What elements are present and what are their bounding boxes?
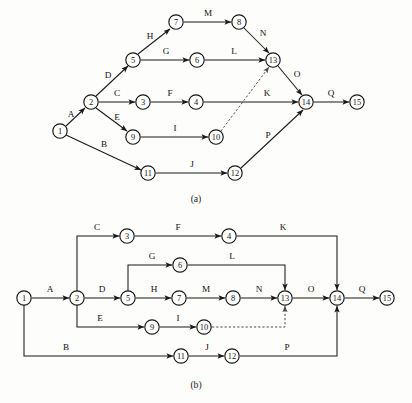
node-b-2[interactable]: 2 <box>70 291 84 305</box>
edge-label-b-A: A <box>47 284 54 294</box>
node-label-a-12: 12 <box>231 169 239 178</box>
node-a-12[interactable]: 12 <box>228 166 242 180</box>
node-label-b-14: 14 <box>333 294 342 303</box>
edge-label-b-L: L <box>229 251 235 261</box>
edge-label-b-O: O <box>308 284 315 294</box>
edge-label-a-A: A <box>68 109 75 119</box>
node-b-15[interactable]: 15 <box>380 291 394 305</box>
edge-label-b-I: I <box>176 313 179 323</box>
diagram-b-group: A B C D E F G H I J K L M N O P Q <box>17 222 394 391</box>
edge-label-a-N: N <box>260 28 267 38</box>
node-b-8[interactable]: 8 <box>226 291 240 305</box>
node-b-13[interactable]: 13 <box>278 291 292 305</box>
edge-label-a-I: I <box>173 123 176 133</box>
edge-label-a-Q: Q <box>328 88 335 98</box>
edge-label-b-E: E <box>97 313 103 323</box>
node-label-a-11: 11 <box>144 169 152 178</box>
node-label-a-5: 5 <box>131 56 135 65</box>
edge-label-a-E: E <box>114 112 120 122</box>
edge-label-a-P: P <box>265 130 270 140</box>
edge-label-b-K: K <box>280 222 287 232</box>
node-b-10[interactable]: 10 <box>197 320 211 334</box>
node-label-b-15: 15 <box>383 294 391 303</box>
node-a-2[interactable]: 2 <box>84 95 98 109</box>
edge-label-a-K: K <box>264 88 271 98</box>
node-label-a-7: 7 <box>174 18 178 27</box>
node-label-b-7: 7 <box>177 294 181 303</box>
edge-label-b-P: P <box>284 342 289 352</box>
edge-label-b-B: B <box>63 342 69 352</box>
node-a-14[interactable]: 14 <box>299 95 313 109</box>
edge-b-dummy-10-13 <box>212 306 285 327</box>
node-label-a-3: 3 <box>141 98 145 107</box>
node-label-a-13: 13 <box>269 56 277 65</box>
node-b-1[interactable]: 1 <box>17 291 31 305</box>
edge-label-b-H: H <box>151 284 158 294</box>
node-label-b-1: 1 <box>22 294 26 303</box>
node-b-4[interactable]: 4 <box>222 229 236 243</box>
edge-label-b-D: D <box>99 284 106 294</box>
node-a-11[interactable]: 11 <box>141 166 155 180</box>
node-a-3[interactable]: 3 <box>136 95 150 109</box>
node-label-b-13: 13 <box>281 294 289 303</box>
edge-label-b-Q: Q <box>359 284 366 294</box>
diagram-a-nodes: 1 2 3 4 5 <box>53 15 364 180</box>
edge-label-a-J: J <box>190 159 194 169</box>
node-b-7[interactable]: 7 <box>172 291 186 305</box>
edge-a-E <box>96 108 127 131</box>
node-b-14[interactable]: 14 <box>330 291 344 305</box>
node-label-a-8: 8 <box>237 18 241 27</box>
node-b-5[interactable]: 5 <box>121 291 135 305</box>
node-label-b-12: 12 <box>228 352 236 361</box>
node-a-6[interactable]: 6 <box>190 53 204 67</box>
node-label-a-1: 1 <box>58 127 62 136</box>
node-b-6[interactable]: 6 <box>173 258 187 272</box>
node-label-b-3: 3 <box>125 232 129 241</box>
node-label-b-9: 9 <box>150 323 154 332</box>
edge-label-a-G: G <box>163 46 170 56</box>
edge-label-b-J: J <box>205 342 209 352</box>
node-a-4[interactable]: 4 <box>189 95 203 109</box>
node-b-11[interactable]: 11 <box>174 349 188 363</box>
node-b-9[interactable]: 9 <box>145 320 159 334</box>
caption-b: (b) <box>190 379 201 391</box>
node-label-b-6: 6 <box>178 261 182 270</box>
edge-b-E <box>77 305 144 327</box>
node-a-5[interactable]: 5 <box>126 53 140 67</box>
edge-label-a-D: D <box>105 70 112 80</box>
edge-label-a-C: C <box>114 88 120 98</box>
node-a-15[interactable]: 15 <box>350 95 364 109</box>
network-diagram-svg: A B C D E F G H I J K L M N O P Q <box>0 0 412 403</box>
edge-label-b-G: G <box>149 251 156 261</box>
node-label-b-8: 8 <box>231 294 235 303</box>
node-label-a-2: 2 <box>89 98 93 107</box>
node-a-9[interactable]: 9 <box>126 130 140 144</box>
node-label-a-15: 15 <box>353 98 361 107</box>
edge-label-b-M: M <box>202 284 210 294</box>
edge-label-a-L: L <box>231 46 237 56</box>
edge-label-a-B: B <box>101 139 107 149</box>
node-a-7[interactable]: 7 <box>169 15 183 29</box>
node-label-b-5: 5 <box>126 294 130 303</box>
edge-label-b-C: C <box>94 222 100 232</box>
node-label-a-14: 14 <box>302 98 311 107</box>
node-a-8[interactable]: 8 <box>232 15 246 29</box>
edge-a-D <box>96 66 128 96</box>
edge-a-dummy-10-13 <box>221 67 269 131</box>
edge-label-b-N: N <box>256 284 263 294</box>
node-label-a-6: 6 <box>195 56 199 65</box>
figure-canvas: A B C D E F G H I J K L M N O P Q <box>0 0 412 403</box>
node-label-a-10: 10 <box>212 133 220 142</box>
node-label-b-2: 2 <box>75 294 79 303</box>
edge-label-a-O: O <box>294 69 301 79</box>
node-label-b-10: 10 <box>200 323 208 332</box>
diagram-a-group: A B C D E F G H I J K L M N O P Q <box>53 8 364 205</box>
edge-a-P <box>241 110 303 168</box>
node-b-3[interactable]: 3 <box>120 229 134 243</box>
node-a-10[interactable]: 10 <box>209 130 223 144</box>
node-label-b-11: 11 <box>177 352 185 361</box>
node-a-13[interactable]: 13 <box>266 53 280 67</box>
node-b-12[interactable]: 12 <box>225 349 239 363</box>
edge-label-b-F: F <box>175 222 180 232</box>
node-a-1[interactable]: 1 <box>53 124 67 138</box>
